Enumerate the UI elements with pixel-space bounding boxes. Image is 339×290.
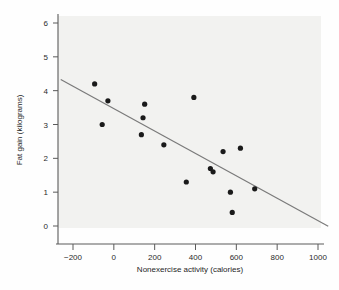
y-tick-label: 1	[44, 188, 49, 197]
data-point	[210, 169, 215, 174]
x-axis-ticks: −20002004006008001000	[64, 244, 327, 262]
x-tick-label: 200	[148, 253, 162, 262]
data-point	[252, 186, 257, 191]
data-point	[230, 210, 235, 215]
data-point	[142, 102, 147, 107]
y-tick-label: 0	[44, 222, 49, 231]
x-tick-label: 0	[112, 253, 117, 262]
x-tick-label: 600	[230, 253, 244, 262]
x-tick-label: −200	[64, 253, 83, 262]
y-tick-label: 3	[44, 121, 49, 130]
data-point	[161, 142, 166, 147]
y-tick-label: 2	[44, 154, 49, 163]
data-point	[92, 81, 97, 86]
data-point	[105, 98, 110, 103]
data-point	[191, 95, 196, 100]
x-tick-label: 800	[270, 253, 284, 262]
x-tick-label: 1000	[309, 253, 327, 262]
data-point	[140, 115, 145, 120]
data-point	[139, 132, 144, 137]
scatter-plot-figure: 0123456 −20002004006008001000 Nonexercis…	[0, 0, 339, 290]
y-axis-ticks: 0123456	[44, 19, 58, 231]
data-point	[184, 179, 189, 184]
data-point	[220, 149, 225, 154]
y-tick-label: 5	[44, 53, 49, 62]
x-tick-label: 400	[189, 253, 203, 262]
plot-canvas: 0123456 −20002004006008001000 Nonexercis…	[0, 0, 339, 290]
y-tick-label: 6	[44, 19, 49, 28]
x-axis-title: Nonexercise activity (calories)	[137, 265, 244, 274]
plot-background	[58, 16, 321, 228]
data-point	[228, 190, 233, 195]
data-point	[238, 146, 243, 151]
y-tick-label: 4	[44, 87, 49, 96]
data-point	[100, 122, 105, 127]
y-axis-title: Fat gain (kilograms)	[15, 94, 24, 165]
